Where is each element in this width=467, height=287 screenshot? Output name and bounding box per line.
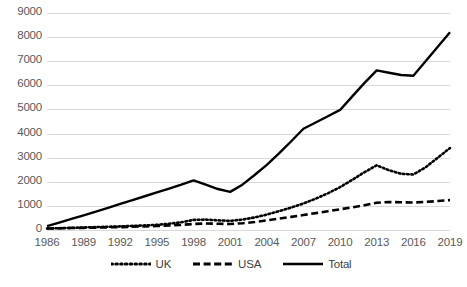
dotted-line-swatch	[111, 259, 151, 269]
y-tick-label: 0	[0, 222, 42, 234]
y-tick-label: 8000	[0, 29, 42, 41]
chart-legend: UKUSATotal	[0, 258, 462, 270]
legend-item-uk[interactable]: UK	[111, 258, 172, 270]
series-line-uk	[47, 148, 450, 229]
y-tick-label: 1000	[0, 198, 42, 210]
series-lines	[47, 13, 450, 230]
y-tick-label: 9000	[0, 5, 42, 17]
legend-label: Total	[328, 258, 351, 270]
legend-item-total[interactable]: Total	[283, 258, 351, 270]
dashed-line-swatch	[193, 259, 233, 269]
legend-label: USA	[238, 258, 261, 270]
series-line-usa	[47, 200, 450, 228]
x-tick-label: 2019	[428, 236, 467, 248]
legend-label: UK	[156, 258, 172, 270]
y-tick-label: 5000	[0, 101, 42, 113]
series-line-total	[47, 32, 450, 226]
y-tick-label: 7000	[0, 53, 42, 65]
solid-line-swatch	[283, 259, 323, 269]
y-tick-label: 4000	[0, 126, 42, 138]
y-tick-label: 3000	[0, 150, 42, 162]
y-tick-label: 2000	[0, 174, 42, 186]
gridline	[47, 230, 450, 231]
y-tick-label: 6000	[0, 77, 42, 89]
legend-item-usa[interactable]: USA	[193, 258, 261, 270]
plot-area	[47, 13, 450, 230]
